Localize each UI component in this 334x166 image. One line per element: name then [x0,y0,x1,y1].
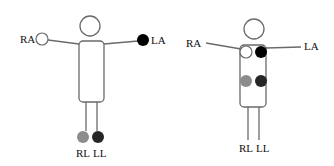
rl-electrode-icon [240,75,252,87]
left-arm [266,47,301,48]
ra-label: RA [186,37,201,49]
rl-label: RL [76,147,90,159]
figure-limb-placement: RA LA RL LL [20,16,166,159]
ra-electrode-icon [36,33,48,45]
torso [79,41,104,102]
right-arm [206,43,241,49]
la-label: LA [151,34,166,46]
la-electrode-icon [137,34,149,46]
la-electrode-icon [255,46,267,58]
ll-label: LL [256,142,270,154]
ll-electrode-icon [92,131,104,143]
head [244,19,264,39]
rl-label: RL [239,142,253,154]
ra-label: RA [20,33,35,45]
electrode-diagram: RA LA RL LL RA LA RL LL [0,0,334,166]
ll-electrode-icon [255,75,267,87]
left-arm [104,41,138,44]
rl-electrode-icon [77,131,89,143]
la-label: LA [304,40,319,52]
right-arm [48,40,79,44]
ll-label: LL [93,147,107,159]
head [80,16,100,36]
ra-electrode-icon [240,46,252,58]
figure-torso-placement: RA LA RL LL [186,19,319,154]
